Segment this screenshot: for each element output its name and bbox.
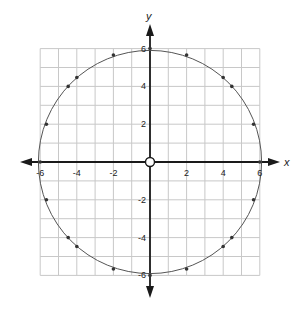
data-point [45,198,49,202]
data-point [258,160,262,164]
data-point [252,198,256,202]
data-point [38,160,42,164]
x-tick-label: -6 [36,168,44,178]
data-point [185,53,189,57]
x-axis-arrow-left [20,158,32,166]
data-point [112,267,116,271]
y-tick-label: -4 [138,233,146,243]
y-tick-label: -2 [138,195,146,205]
circle-plot: -6-4-2246 642-2-4-6 x y [0,0,304,309]
data-point [75,76,79,80]
y-axis-arrow-up [146,24,154,36]
y-axis-label: y [145,10,153,22]
y-tick-label: -6 [138,270,146,280]
data-point [230,85,234,89]
data-point [148,47,152,51]
data-point [45,122,49,126]
origin-marker [146,158,155,167]
data-point [230,236,234,240]
data-point [66,85,70,89]
data-point [148,274,152,278]
y-tick-label: 4 [141,81,146,91]
x-tick-label: 4 [221,168,226,178]
x-tick-label: 2 [184,168,189,178]
x-tick-label: -4 [73,168,81,178]
x-tick-label: -2 [109,168,117,178]
data-point [221,76,225,80]
data-point [252,122,256,126]
data-point [185,267,189,271]
x-tick-label: 6 [257,168,262,178]
y-axis-arrow-down [146,286,154,298]
data-point [66,236,70,240]
y-tick-label: 6 [141,44,146,54]
x-axis-arrow-right [268,158,280,166]
data-point [112,53,116,57]
y-tick-label: 2 [141,119,146,129]
data-point [75,245,79,249]
data-point [221,245,225,249]
x-axis-label: x [283,156,290,168]
